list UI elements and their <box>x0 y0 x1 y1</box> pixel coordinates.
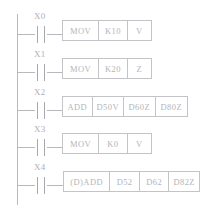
instruction-operand-1: K10 <box>99 21 127 40</box>
contact-bar-left-icon <box>37 139 38 156</box>
contact-bar-right-icon <box>44 177 45 194</box>
contact-bar-right-icon <box>44 64 45 81</box>
contact-label-x4: X4 <box>34 162 46 172</box>
instruction-box-4[interactable]: MOV K0 V <box>62 133 152 154</box>
rung-wire-right <box>47 72 63 73</box>
instruction-opcode: ADD <box>63 97 93 116</box>
instruction-operand-1: D50V <box>93 97 125 116</box>
contact-x3-normally-open[interactable] <box>35 139 47 156</box>
instruction-box-3[interactable]: ADD D50V D60Z D80Z <box>62 96 188 117</box>
instruction-operand-1: K0 <box>99 134 127 153</box>
ladder-diagram-canvas: X0 MOV K10 V X1 MOV K20 Z X2 <box>0 0 219 213</box>
instruction-opcode: MOV <box>63 134 99 153</box>
instruction-operand-3: D80Z <box>156 97 187 116</box>
instruction-operand-1: D52 <box>110 172 140 191</box>
contact-bar-left-icon <box>37 177 38 194</box>
rung-wire-right <box>47 110 63 111</box>
instruction-opcode: (D)ADD <box>64 172 110 191</box>
contact-bar-right-icon <box>44 102 45 119</box>
instruction-operand-2: Z <box>128 59 151 78</box>
rung-wire-right <box>47 34 63 35</box>
contact-bar-left-icon <box>37 102 38 119</box>
instruction-box-5[interactable]: (D)ADD D52 D62 D82Z <box>63 171 200 192</box>
contact-label-x3: X3 <box>34 124 46 134</box>
contact-label-x2: X2 <box>34 87 46 97</box>
contact-x4-normally-open[interactable] <box>35 177 47 194</box>
instruction-operand-1: K20 <box>99 59 127 78</box>
contact-x2-normally-open[interactable] <box>35 102 47 119</box>
contact-label-x0: X0 <box>34 11 46 21</box>
instruction-operand-2: V <box>128 134 151 153</box>
instruction-operand-2: D60Z <box>124 97 156 116</box>
rung-wire-right <box>47 147 63 148</box>
rung-wire-left <box>17 110 35 111</box>
rung-wire-left <box>17 185 35 186</box>
contact-x0-normally-open[interactable] <box>35 26 47 43</box>
contact-bar-left-icon <box>37 64 38 81</box>
rung-wire-right <box>47 185 63 186</box>
contact-x1-normally-open[interactable] <box>35 64 47 81</box>
contact-bar-right-icon <box>44 26 45 43</box>
instruction-opcode: MOV <box>63 59 99 78</box>
instruction-box-2[interactable]: MOV K20 Z <box>62 58 152 79</box>
instruction-operand-2: D62 <box>140 172 170 191</box>
instruction-operand-2: V <box>128 21 151 40</box>
rung-wire-left <box>17 72 35 73</box>
instruction-opcode: MOV <box>63 21 99 40</box>
instruction-operand-3: D82Z <box>169 172 199 191</box>
contact-bar-left-icon <box>37 26 38 43</box>
instruction-box-1[interactable]: MOV K10 V <box>62 20 152 41</box>
rung-wire-left <box>17 34 35 35</box>
rung-wire-left <box>17 147 35 148</box>
contact-label-x1: X1 <box>34 49 46 59</box>
contact-bar-right-icon <box>44 139 45 156</box>
